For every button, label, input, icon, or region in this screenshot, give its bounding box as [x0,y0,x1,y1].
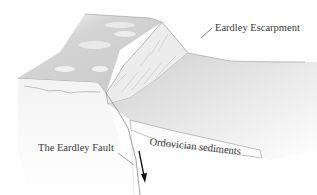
escarpment-label: Eardley Escarpment [215,23,300,34]
escarpment-leader [201,28,212,38]
escarpment-diagram: Eardley Escarpment The Eardley Fault Ord… [0,0,317,195]
fault-label: The Eardley Fault [38,143,114,154]
down-arrow-icon [139,151,147,183]
